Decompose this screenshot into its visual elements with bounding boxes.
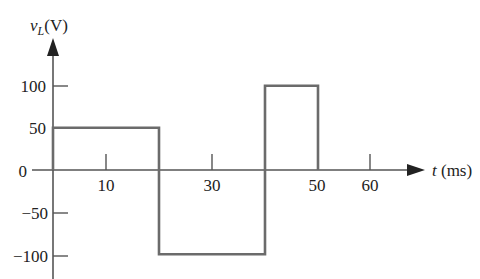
x-axis-arrow-icon: [407, 164, 425, 176]
x-tick-label-30: 30: [204, 176, 221, 195]
y-axis-label: vL(V): [30, 16, 68, 38]
y-tick-label-100: 100: [21, 77, 47, 96]
x-tick-label-10: 10: [98, 176, 115, 195]
y-ticks: [53, 86, 68, 256]
chart: 100 50 0 −50 −100 10 30 50 60 vL(V) t (m…: [0, 0, 480, 279]
y-axis-arrow-icon: [47, 38, 59, 56]
x-axis-label: t (ms): [432, 161, 472, 180]
y-tick-label-neg50: −50: [21, 204, 48, 223]
y-tick-label-0: 0: [19, 162, 28, 181]
x-tick-label-60: 60: [362, 176, 379, 195]
x-ticks: [106, 154, 370, 170]
y-tick-label-neg100: −100: [13, 247, 48, 266]
x-axis: [32, 164, 425, 176]
x-tick-label-50: 50: [309, 176, 326, 195]
y-tick-label-50: 50: [29, 119, 46, 138]
